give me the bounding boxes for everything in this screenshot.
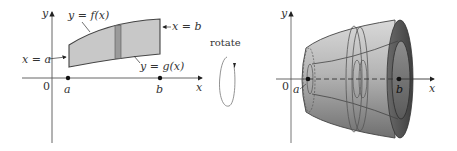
origin-label: 0	[43, 80, 50, 93]
lower-curve-label: y = g(x)	[139, 60, 184, 73]
rotate-label: rotate	[210, 37, 241, 48]
x-axis-label: x	[196, 81, 203, 94]
solid-of-revolution-figure: y x 0 a b y = f(x) y = g(x) x = a x = b …	[0, 0, 457, 151]
point-a	[66, 76, 70, 80]
rotate-arrowhead-icon	[233, 63, 236, 68]
point-b	[158, 76, 162, 80]
point-b-label-3d: b	[396, 83, 403, 96]
x-axis-label-3d: x	[429, 82, 436, 95]
upper-curve-label: y = f(x)	[67, 9, 109, 22]
rotate-annotation: rotate	[210, 37, 241, 106]
rotate-arrow-icon	[219, 57, 234, 106]
washer-strip	[115, 26, 121, 59]
point-a-label-3d: a	[293, 83, 300, 96]
right-panel-solid-of-revolution: y x 0 a b	[276, 7, 436, 143]
right-bound-label: x = b	[172, 20, 201, 33]
point-a-3d	[306, 77, 311, 82]
point-a-label: a	[64, 83, 71, 96]
y-axis-label-3d: y	[280, 7, 288, 20]
y-axis-label: y	[41, 7, 49, 20]
left-panel-region-plot: y x 0 a b y = f(x) y = g(x) x = a x = b	[22, 7, 203, 143]
left-bound-label: x = a	[22, 53, 51, 66]
point-b-3d	[397, 77, 402, 82]
point-b-label: b	[156, 83, 163, 96]
upper-curve-leader	[82, 22, 90, 32]
origin-label-3d: 0	[282, 80, 289, 93]
